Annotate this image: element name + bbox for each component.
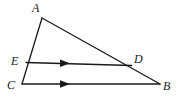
vertex-label-c: C <box>7 79 15 91</box>
segment-ac <box>22 18 42 84</box>
vertex-label-d: D <box>134 53 143 65</box>
vertex-label-b: B <box>163 80 170 92</box>
vertex-label-e: E <box>11 55 18 67</box>
parallel-arrow-marker-cb <box>60 80 70 87</box>
parallel-arrow-marker-ed <box>60 59 70 67</box>
vertex-label-a: A <box>32 2 39 14</box>
geometry-canvas <box>0 0 180 109</box>
segment-ab <box>42 18 160 84</box>
geometry-figure: A B C D E <box>0 0 180 109</box>
segment-ed <box>26 63 132 66</box>
